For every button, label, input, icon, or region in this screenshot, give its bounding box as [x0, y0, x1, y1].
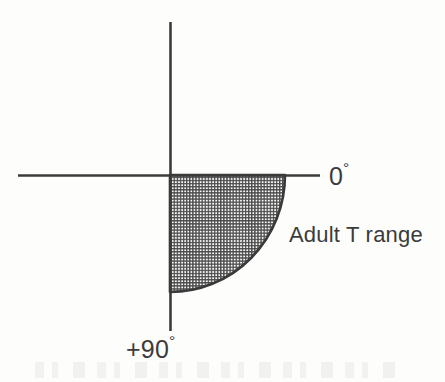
annotation-adult-t-range-text: Adult T range [289, 222, 423, 247]
adult-t-range-region [170, 175, 285, 292]
axis-label-plus-ninety-degrees: +90° [126, 332, 175, 364]
scan-bleedthrough-artifact [35, 362, 395, 378]
axis-label-zero-degrees: 0° [329, 159, 349, 191]
axis-label-plus-ninety-value: +90° [126, 335, 175, 363]
degree-symbol: ° [343, 159, 349, 176]
shaded-region-group [170, 175, 285, 292]
annotation-adult-t-range: Adult T range [289, 222, 423, 248]
diagram-canvas [0, 0, 445, 382]
axis-label-zero-value: 0° [329, 162, 349, 190]
degree-symbol: ° [169, 332, 175, 349]
quadrant-diagram-figure: 0° +90° Adult T range [0, 0, 445, 382]
